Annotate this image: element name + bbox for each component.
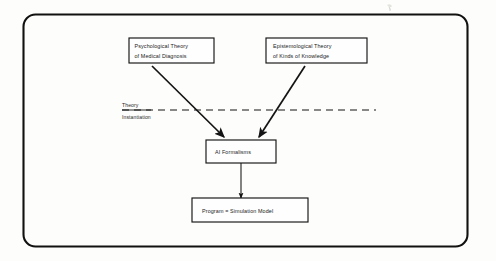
node-psychological-theory-line-2: of Medical Diagnosis	[135, 53, 187, 59]
node-epistemological-theory[interactable]: Epistemological Theory of Kinds of Knowl…	[266, 38, 367, 63]
edge-epistemological-theory-to-ai-formalisms	[259, 66, 305, 137]
diagram-canvas: Theory Instantiation Psychological Theor…	[0, 0, 496, 261]
node-ai-formalisms-label: AI Formalisms	[215, 149, 251, 155]
node-psychological-theory-box[interactable]	[129, 38, 214, 63]
node-epistemological-theory-line-1: Epistemological Theory	[273, 43, 332, 49]
node-psychological-theory[interactable]: Psychological Theory of Medical Diagnosi…	[129, 38, 214, 63]
node-ai-formalisms[interactable]: AI Formalisms	[206, 140, 276, 163]
divider-label-below: Instantiation	[122, 114, 151, 120]
node-program-simulation-model-label: Program = Simulation Model	[202, 208, 273, 214]
figure-container: Theory Instantiation Psychological Theor…	[0, 0, 496, 261]
edge-psychological-theory-to-ai-formalisms	[152, 66, 224, 137]
node-program-simulation-model[interactable]: Program = Simulation Model	[192, 198, 308, 222]
node-psychological-theory-line-1: Psychological Theory	[135, 43, 189, 49]
node-epistemological-theory-box[interactable]	[266, 38, 367, 63]
divider-label-above: Theory	[122, 102, 139, 108]
node-epistemological-theory-line-2: of Kinds of Knowledge	[273, 53, 329, 59]
scan-artifact	[387, 4, 392, 11]
